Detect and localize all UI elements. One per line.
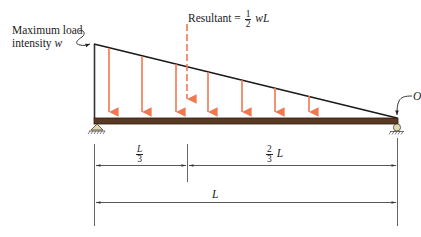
- fraction-one-half: 1 2: [245, 10, 252, 29]
- dim-total-label: L: [212, 188, 218, 201]
- dim-two-thirds-label: 2 3 L: [265, 145, 283, 164]
- dimension-lines: [96, 166, 396, 203]
- max-load-label: Maximum load intensity w: [12, 24, 83, 50]
- load-triangle: [94, 44, 397, 118]
- beam: [94, 118, 398, 124]
- right-roller-support-icon: [389, 124, 404, 135]
- max-load-label-line1: Maximum load: [12, 24, 83, 37]
- distributed-load-arrows: [109, 48, 309, 112]
- resultant-label: Resultant = 1 2 wL: [188, 10, 269, 29]
- max-load-label-line2: intensity w: [12, 37, 83, 50]
- symbol-w: w: [55, 37, 63, 49]
- point-o-label: O: [413, 90, 421, 103]
- dim-third-label: L 3: [135, 145, 144, 164]
- point-o-leader: [397, 96, 412, 115]
- left-pin-support-icon: [88, 124, 105, 134]
